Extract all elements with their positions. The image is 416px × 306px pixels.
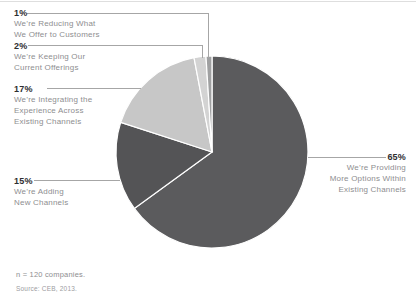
source-note: Source: CEB, 2013. (16, 285, 77, 292)
slice-pct-65: 65% (330, 152, 406, 162)
slice-label-17-line1: We’re Integrating the (14, 94, 92, 105)
slice-pct-1: 1% (14, 8, 100, 18)
pie-chart-figure: 1% We’re Reducing What We Offer to Custo… (0, 0, 416, 306)
callout-17pct: 17% We’re Integrating the Experience Acr… (14, 84, 92, 127)
slice-label-17-line3: Existing Channels (14, 116, 92, 127)
slice-label-2-line1: We’re Keeping Our (14, 51, 85, 62)
slice-pct-15: 15% (14, 176, 68, 186)
sample-size-note: n = 120 companies. (16, 270, 85, 279)
slice-label-1-line1: We’re Reducing What (14, 18, 100, 29)
callout-15pct: 15% We’re Adding New Channels (14, 176, 68, 208)
slice-label-2-line2: Current Offerings (14, 62, 85, 73)
slice-label-15-line2: New Channels (14, 197, 68, 208)
slice-pct-17: 17% (14, 84, 92, 94)
slice-label-65-line3: Existing Channels (330, 184, 406, 195)
slice-label-15-line1: We’re Adding (14, 186, 68, 197)
slice-label-17-line2: Experience Across (14, 105, 92, 116)
slice-label-65-line2: More Options Within (330, 173, 406, 184)
callout-1pct: 1% We’re Reducing What We Offer to Custo… (14, 8, 100, 40)
leader-line-2pct-drop (202, 45, 203, 58)
slice-pct-2: 2% (14, 41, 85, 51)
callout-65pct: 65% We’re Providing More Options Within … (330, 152, 406, 195)
leader-line-1pct-drop (208, 13, 209, 58)
slice-label-65-line1: We’re Providing (330, 162, 406, 173)
slice-label-1-line2: We Offer to Customers (14, 29, 100, 40)
callout-2pct: 2% We’re Keeping Our Current Offerings (14, 41, 85, 73)
